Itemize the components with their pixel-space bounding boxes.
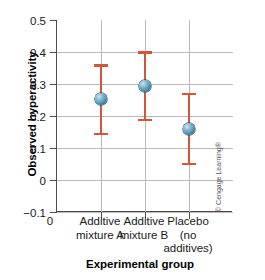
y-axis-tick: 0.3: [50, 84, 57, 85]
plot-area: 0.50.40.30.20.10−0.1: [56, 20, 232, 212]
x-axis-title: Experimental group: [40, 258, 240, 270]
y-axis-tick-label: 0: [40, 175, 46, 187]
y-axis-tick: 0: [50, 180, 57, 181]
y-axis-tick-label: 0.5: [30, 15, 46, 27]
y-axis-tick: 0.1: [50, 148, 57, 149]
y-axis-tick: 0.2: [50, 116, 57, 117]
y-axis-tick-label: 0.1: [30, 143, 46, 155]
error-bar-cap-upper: [94, 64, 108, 67]
error-bar-cap-lower: [138, 119, 152, 122]
y-axis-tick: 0.4: [50, 52, 57, 53]
x-axis-tick-label: Placebo(noadditives): [145, 215, 231, 256]
x-axis-tick-label-line: additives): [145, 242, 231, 256]
y-axis-tick-label: 0.4: [30, 47, 46, 59]
x-axis-tick-label-line: Placebo: [145, 215, 231, 229]
figure-container: Observed hyperactivity 0.50.40.30.20.10−…: [0, 0, 265, 280]
data-point-marker[interactable]: [95, 93, 107, 105]
data-point-marker[interactable]: [183, 123, 195, 135]
error-bar-cap-upper: [138, 51, 152, 54]
y-axis-tick-label: 0.3: [30, 79, 46, 91]
error-bar-cap-lower: [94, 133, 108, 136]
y-axis-tick-label: 0.2: [30, 111, 46, 123]
y-axis-tick: −0.1: [50, 212, 57, 213]
error-bar-cap-upper: [182, 93, 196, 96]
error-bar-cap-lower: [182, 163, 196, 166]
copyright-credit: © Cengage Learning®: [215, 122, 222, 212]
y-axis-tick: 0.5: [50, 20, 57, 21]
data-point-marker[interactable]: [139, 80, 151, 92]
x-axis-tick-label-line: (no: [145, 229, 231, 243]
